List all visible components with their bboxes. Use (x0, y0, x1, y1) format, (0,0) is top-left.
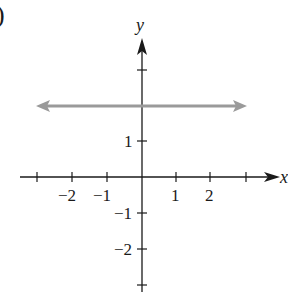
x-tick-label: 1 (171, 187, 180, 204)
y-axis-label: y (136, 16, 144, 34)
x-axis-label: x (280, 168, 288, 186)
y-tick-label: −2 (114, 241, 132, 258)
coordinate-plane: ) y x − (0, 0, 288, 292)
y-tick-label: −1 (114, 205, 132, 222)
x-tick-label: −2 (58, 187, 76, 204)
y-tick-label: 1 (124, 133, 133, 150)
y-axis (137, 38, 147, 292)
x-tick-label: 2 (205, 187, 214, 204)
x-tick-label: −1 (93, 187, 111, 204)
graph-canvas (0, 0, 288, 292)
x-axis (20, 172, 280, 182)
